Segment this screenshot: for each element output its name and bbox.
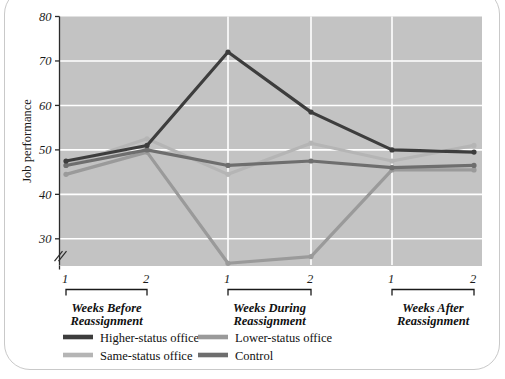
data-point	[308, 158, 313, 163]
group-bracket	[66, 290, 147, 296]
data-point	[225, 172, 230, 177]
chart-canvas: 304050607080 121212 Weeks BeforeReassign…	[0, 0, 505, 379]
data-point	[144, 136, 149, 141]
x-group-label-line2: Reassignment	[69, 314, 143, 328]
data-point	[308, 254, 313, 259]
y-tick-label: 70	[39, 54, 52, 68]
data-point	[144, 143, 149, 148]
legend-label: Control	[235, 349, 274, 363]
data-point	[63, 158, 68, 163]
data-point	[471, 143, 476, 148]
x-tick-label: 1	[224, 272, 230, 286]
group-bracket	[228, 290, 311, 296]
y-axis-ticks: 304050607080	[38, 10, 60, 246]
y-tick-label: 50	[39, 143, 52, 157]
y-tick-label: 60	[39, 99, 52, 113]
data-point	[471, 150, 476, 155]
data-point	[225, 163, 230, 168]
data-point	[389, 165, 394, 170]
x-tick-label: 1	[388, 272, 394, 286]
y-tick-label: 30	[38, 232, 52, 246]
line-chart: 304050607080 121212 Weeks BeforeReassign…	[0, 0, 505, 379]
x-axis-group-brackets: Weeks BeforeReassignmentWeeks DuringReas…	[66, 290, 474, 328]
data-point	[225, 49, 230, 54]
x-group-label-line2: Reassignment	[232, 314, 306, 328]
y-axis-title: Job performance	[20, 99, 34, 183]
data-point	[225, 261, 230, 266]
data-point	[144, 147, 149, 152]
data-point	[389, 158, 394, 163]
x-tick-label: 2	[143, 272, 149, 286]
legend-label: Higher-status office	[100, 331, 200, 345]
x-group-label-line1: Weeks After	[402, 301, 464, 315]
x-tick-label: 2	[307, 272, 313, 286]
data-point	[389, 147, 394, 152]
data-point	[308, 109, 313, 114]
data-point	[471, 167, 476, 172]
data-point	[471, 163, 476, 168]
y-axis-title-text: Job performance	[20, 99, 34, 183]
plot-background	[60, 17, 483, 266]
y-tick-label: 80	[39, 10, 52, 24]
group-bracket	[392, 290, 474, 296]
x-tick-label: 2	[470, 272, 476, 286]
x-axis-ticks: 121212	[62, 272, 476, 286]
legend-label: Lower-status office	[235, 331, 333, 345]
x-group-label-line1: Weeks Before	[71, 301, 142, 315]
data-point	[63, 163, 68, 168]
x-group-label-line1: Weeks During	[233, 301, 306, 315]
legend-label: Same-status office	[100, 349, 193, 363]
x-group-label-line2: Reassignment	[396, 314, 470, 328]
y-tick-label: 40	[39, 188, 52, 202]
data-point	[63, 172, 68, 177]
data-point	[308, 141, 313, 146]
chart-legend: Higher-status officeLower-status officeS…	[63, 331, 333, 363]
x-tick-label: 1	[62, 272, 68, 286]
